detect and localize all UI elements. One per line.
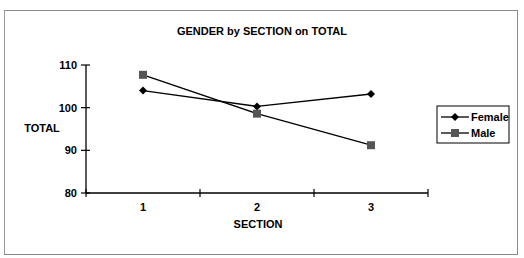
diamond-marker <box>367 90 375 98</box>
square-marker <box>139 71 147 79</box>
y-axis-ticks: 8090100110 <box>59 59 90 199</box>
legend: FemaleMale <box>437 106 509 143</box>
x-axis-label: SECTION <box>234 218 283 230</box>
y-tick-label: 80 <box>65 187 77 199</box>
square-marker <box>451 129 459 137</box>
square-marker <box>253 110 261 118</box>
y-axis-label: TOTAL <box>24 122 60 134</box>
legend-label: Male <box>471 127 495 139</box>
x-tick-label: 3 <box>368 201 374 213</box>
y-tick-label: 100 <box>59 102 77 114</box>
line-chart: GENDER by SECTION on TOTAL TOTAL SECTION… <box>0 0 524 258</box>
series-female <box>139 87 375 111</box>
legend-label: Female <box>471 111 509 123</box>
diamond-marker <box>253 102 261 110</box>
series-male <box>139 71 375 149</box>
x-tick-label: 2 <box>254 201 260 213</box>
diamond-marker <box>139 87 147 95</box>
square-marker <box>367 141 375 149</box>
series-group <box>139 71 375 149</box>
y-tick-label: 90 <box>65 144 77 156</box>
y-tick-label: 110 <box>59 59 77 71</box>
chart-title: GENDER by SECTION on TOTAL <box>177 25 347 37</box>
x-tick-label: 1 <box>140 201 146 213</box>
